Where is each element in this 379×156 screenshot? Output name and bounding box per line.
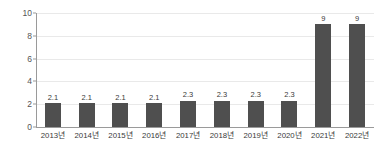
y-tick-label: 2 — [6, 100, 32, 109]
y-tick-label: 0 — [6, 123, 32, 132]
y-axis-ticks: 10 8 6 4 2 0 — [0, 0, 32, 156]
x-axis-ticks: 2013년 2014년 2015년 2016년 2017년 2018년 2019… — [36, 0, 374, 156]
y-tick-label: 10 — [6, 9, 32, 18]
y-tick-label: 6 — [6, 54, 32, 63]
bar-chart: 10 8 6 4 2 0 2.1 2.1 2.1 2.1 — [0, 0, 379, 156]
y-tick-label: 4 — [6, 77, 32, 86]
x-tick-label: 2022년 — [337, 132, 377, 140]
y-tick-label: 8 — [6, 32, 32, 41]
